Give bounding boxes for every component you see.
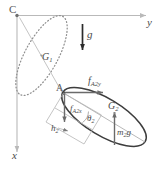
- weight-m2g-gravity: g: [126, 127, 131, 137]
- label-gravity: g: [87, 29, 93, 40]
- label-axis-x: x: [12, 150, 17, 161]
- label-point-c: C: [9, 4, 16, 15]
- label-height-2: h2: [51, 124, 58, 133]
- label-axis-y: y: [147, 17, 152, 28]
- angle-2-subscript: 2: [91, 118, 94, 124]
- force-fa2y-subscript: A2y: [91, 80, 101, 87]
- label-centroid-1: G1: [42, 52, 53, 62]
- weight-m2g-mass: m: [117, 127, 124, 137]
- centroid-2-marker: [113, 112, 115, 114]
- force-fa2x-subscript: A2x: [73, 108, 82, 114]
- label-point-a: A: [56, 83, 63, 93]
- centroid-1-subscript: 1: [49, 56, 52, 63]
- label-force-fa2x: fA2x: [70, 104, 82, 113]
- label-weight-m2g: m2g: [117, 128, 131, 137]
- free-body-diagram: C y x g G1 A fA2y fA2x θ2 G2 m2g h2: [0, 0, 160, 173]
- label-angle-2: θ2: [87, 114, 94, 123]
- height-2-symbol: h: [51, 123, 56, 133]
- diagram-canvas: [0, 0, 160, 173]
- label-force-fa2y: fA2y: [88, 76, 101, 86]
- height-2-subscript: 2: [56, 128, 59, 134]
- label-centroid-2: G2: [108, 101, 119, 111]
- centroid-2-subscript: 2: [115, 105, 118, 112]
